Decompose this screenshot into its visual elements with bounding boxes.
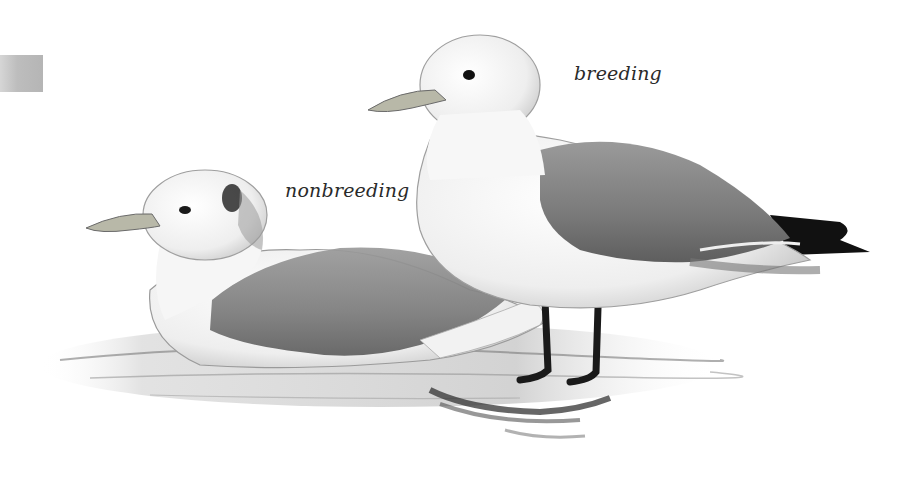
illustration-canvas: breeding nonbreeding xyxy=(0,0,916,486)
breeding-label: breeding xyxy=(574,62,662,84)
nonbreeding-label: nonbreeding xyxy=(285,179,410,201)
gull-illustration xyxy=(0,0,916,486)
